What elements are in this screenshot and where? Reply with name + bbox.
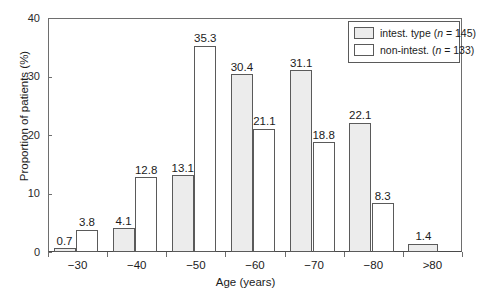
bar-nonintest-minus40 (135, 177, 157, 252)
legend-swatch-filled-icon (354, 27, 374, 39)
bar-nonintest-minus80 (372, 203, 394, 252)
x-tick-label-minus40: −40 (127, 259, 147, 271)
bar-intest-minus40 (113, 228, 135, 252)
x-tick-mark-6 (403, 252, 404, 257)
bar-value-nonintest-minus70: 18.8 (312, 129, 334, 141)
bar-nonintest-minus60 (253, 129, 275, 252)
bar-value-nonintest-minus40: 12.8 (135, 164, 157, 176)
bar-value-intest-minus70: 31.1 (290, 57, 312, 69)
bar-value-intest-minus40: 4.1 (116, 215, 132, 227)
bar-value-nonintest-minus50: 35.3 (194, 32, 216, 44)
x-tick-mark-5 (344, 252, 345, 257)
x-tick-mark-3 (225, 252, 226, 257)
bar-nonintest-minus70 (313, 142, 335, 252)
x-tick-label-over80: >80 (423, 259, 443, 271)
bar-intest-minus60 (231, 74, 253, 252)
bar-value-intest-minus50: 13.1 (172, 162, 194, 174)
y-tick-mark-10 (48, 194, 52, 195)
legend-item-intest-type: intest. type (n = 145) (354, 26, 454, 40)
bar-intest-minus80 (349, 123, 371, 252)
x-tick-label-minus50: −50 (186, 259, 206, 271)
bar-intest-minus70 (290, 70, 312, 252)
x-tick-label-minus80: −80 (364, 259, 384, 271)
y-tick-label-40: 40 (28, 13, 40, 24)
x-tick-label-minus30: −30 (68, 259, 88, 271)
bar-value-intest-over80: 1.4 (415, 230, 431, 242)
x-tick-mark-2 (166, 252, 167, 257)
legend-swatch-hollow-icon (354, 44, 374, 56)
bar-nonintest-minus50 (194, 46, 216, 253)
bar-intest-minus30 (54, 248, 76, 252)
x-tick-label-minus60: −60 (245, 259, 265, 271)
x-tick-mark-left-edge (48, 252, 49, 257)
x-axis-title: Age (years) (0, 276, 491, 288)
legend-item-non-intest: non-intest. (n = 133) (354, 43, 454, 57)
x-tick-mark-right-edge (462, 252, 463, 257)
legend-label-non-intest: non-intest. (n = 133) (380, 44, 474, 56)
bar-value-nonintest-minus60: 21.1 (253, 115, 275, 127)
y-tick-label-0: 0 (34, 247, 40, 258)
legend: intest. type (n = 145) non-intest. (n = … (348, 21, 460, 63)
x-tick-label-minus70: −70 (304, 259, 324, 271)
y-tick-mark-30 (48, 77, 52, 78)
bar-chart-figure: 0 10 20 30 40 Proportion of patients (%)… (0, 0, 491, 304)
bar-value-intest-minus60: 30.4 (231, 61, 253, 73)
y-tick-mark-20 (48, 135, 52, 136)
bar-intest-minus50 (172, 175, 194, 252)
y-tick-mark-40 (48, 18, 52, 19)
bar-intest-over80 (408, 244, 438, 252)
bar-value-intest-minus80: 22.1 (349, 109, 371, 121)
bar-value-intest-minus30: 0.7 (57, 235, 73, 247)
legend-label-intest-type: intest. type (n = 145) (380, 27, 476, 39)
x-tick-mark-4 (285, 252, 286, 257)
x-tick-mark-1 (107, 252, 108, 257)
bar-value-nonintest-minus80: 8.3 (375, 190, 391, 202)
caption-cutoff (10, 296, 480, 304)
bar-value-nonintest-minus30: 3.8 (79, 216, 95, 228)
bar-nonintest-minus30 (76, 230, 98, 252)
y-axis-title: Proportion of patients (%) (18, 26, 30, 206)
